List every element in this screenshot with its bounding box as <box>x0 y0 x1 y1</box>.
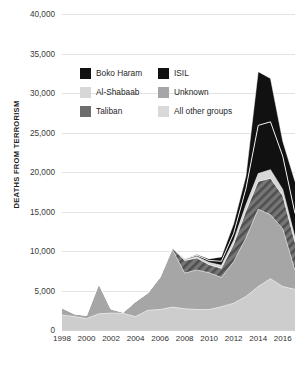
legend-label: ISIL <box>174 69 189 77</box>
x-axis: 1998200020022004200620082010201220142016 <box>62 334 295 354</box>
legend-item-all-other-groups[interactable]: All other groups <box>158 106 240 117</box>
plot-area: 05,00010,00015,00020,00025,00030,00035,0… <box>62 14 295 330</box>
legend-row: Taliban All other groups <box>80 102 240 121</box>
legend-label: Taliban <box>96 107 122 115</box>
legend-item-al-shabaab[interactable]: Al-Shabaab <box>80 87 158 98</box>
x-axis-tick-label: 2000 <box>78 334 96 343</box>
gridline <box>62 330 295 331</box>
legend-item-taliban[interactable]: Taliban <box>80 106 158 117</box>
legend-row: Boko Haram ISIL <box>80 64 240 83</box>
x-axis-tick-label: 1998 <box>53 334 71 343</box>
x-axis-tick-label: 2014 <box>249 334 267 343</box>
legend-row: Al-Shabaab Unknown <box>80 83 240 102</box>
y-axis-tick-label: 40,000 <box>30 10 55 19</box>
legend-item-boko-haram[interactable]: Boko Haram <box>80 68 158 79</box>
stacked-area-series <box>62 14 295 330</box>
y-axis-tick-label: 10,000 <box>30 247 55 256</box>
chart-legend: Boko Haram ISIL Al-Shabaab Unknown Talib… <box>80 64 240 121</box>
y-axis-tick-label: 30,000 <box>30 89 55 98</box>
legend-label: All other groups <box>174 107 232 115</box>
taliban-swatch <box>80 106 91 117</box>
legend-label: Unknown <box>174 88 209 96</box>
y-axis-title: DEATHS FROM TERRORISM <box>12 85 21 225</box>
y-axis-tick-label: 5,000 <box>35 286 56 295</box>
al-shabaab-swatch <box>80 87 91 98</box>
legend-label: Al-Shabaab <box>96 88 139 96</box>
x-axis-tick-label: 2002 <box>102 334 120 343</box>
x-axis-tick-label: 2016 <box>274 334 292 343</box>
x-axis-tick-label: 2004 <box>127 334 145 343</box>
legend-item-unknown[interactable]: Unknown <box>158 87 240 98</box>
y-axis-tick-label: 25,000 <box>30 128 55 137</box>
terrorism-deaths-area-chart: DEATHS FROM TERRORISM 05,00010,00015,000… <box>0 0 308 370</box>
boko-haram-swatch <box>80 68 91 79</box>
legend-label: Boko Haram <box>96 69 142 77</box>
isil-swatch <box>158 68 169 79</box>
y-axis-tick-label: 20,000 <box>30 168 55 177</box>
all-other-groups-swatch <box>158 106 169 117</box>
x-axis-tick-label: 2010 <box>200 334 218 343</box>
x-axis-tick-label: 2012 <box>225 334 243 343</box>
y-axis-tick-label: 15,000 <box>30 207 55 216</box>
y-axis-tick-label: 35,000 <box>30 49 55 58</box>
legend-item-isil[interactable]: ISIL <box>158 68 240 79</box>
x-axis-tick-label: 2006 <box>151 334 169 343</box>
unknown-swatch <box>158 87 169 98</box>
x-axis-tick-label: 2008 <box>176 334 194 343</box>
